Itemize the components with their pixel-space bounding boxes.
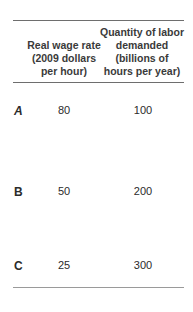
header-line: Real wage rate xyxy=(20,39,108,52)
header-line: (billions of xyxy=(98,52,186,65)
bottom-rule xyxy=(13,287,184,288)
quantity-demanded-cell: 300 xyxy=(123,259,163,271)
header-quantity-labor-demanded: Quantity of labor demanded (billions of … xyxy=(98,26,186,78)
header-rule xyxy=(13,82,184,83)
table-row: A 80 100 xyxy=(0,104,193,120)
table-row: C 25 300 xyxy=(0,259,193,275)
top-rule xyxy=(13,20,184,21)
row-label: C xyxy=(14,259,23,273)
header-line: demanded xyxy=(98,39,186,52)
table-row: B 50 200 xyxy=(0,185,193,201)
row-label: A xyxy=(14,104,23,118)
header-line: per hour) xyxy=(20,65,108,78)
real-wage-rate-cell: 50 xyxy=(44,185,84,197)
real-wage-rate-cell: 80 xyxy=(44,104,84,116)
header-line: Quantity of labor xyxy=(98,26,186,39)
header-line: hours per year) xyxy=(98,65,186,78)
header-real-wage-rate: Real wage rate (2009 dollars per hour) xyxy=(20,39,108,78)
quantity-demanded-cell: 100 xyxy=(123,104,163,116)
real-wage-rate-cell: 25 xyxy=(44,259,84,271)
row-label: B xyxy=(14,185,23,199)
quantity-demanded-cell: 200 xyxy=(123,185,163,197)
header-line: (2009 dollars xyxy=(20,52,108,65)
